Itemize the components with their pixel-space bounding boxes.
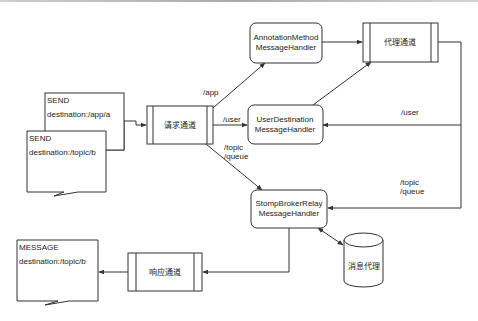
response-channel: 响应通道 bbox=[128, 253, 202, 291]
send-topic-title: SEND bbox=[29, 134, 51, 143]
send-topic-frame: SEND destination:/topic/b bbox=[27, 131, 106, 196]
message-out-frame: MESSAGE destination:/topic/b bbox=[17, 240, 98, 305]
broker-channel-label: 代理通道 bbox=[384, 37, 416, 47]
send-app-title: SEND bbox=[47, 96, 69, 105]
message-broker-label: 消息代理 bbox=[348, 261, 380, 271]
annotation-method-message-handler: AnnotationMethod MessageHandler bbox=[250, 23, 322, 63]
edge-send-to-request-channel bbox=[124, 121, 146, 125]
message-out-title: MESSAGE bbox=[19, 243, 59, 252]
user-destination-handler-line2: MessageHandler bbox=[255, 125, 316, 134]
edge-user-destination-to-broker-channel bbox=[313, 62, 371, 105]
user-destination-message-handler: UserDestination MessageHandler bbox=[248, 105, 323, 144]
user-destination-handler-line1: UserDestination bbox=[257, 115, 314, 124]
request-channel-label: 请求通道 bbox=[164, 120, 196, 130]
message-out-destination: destination:/topic/b bbox=[19, 257, 86, 266]
edge-label-queue: /queue bbox=[224, 152, 249, 161]
edge-label-topic: /topic bbox=[224, 143, 243, 152]
edge-relay-broker-bidirectional bbox=[318, 228, 343, 245]
request-channel: 请求通道 bbox=[147, 106, 213, 144]
edge-label-topic-return: /topic bbox=[400, 178, 419, 187]
send-topic-destination: destination:/topic/b bbox=[29, 148, 96, 157]
message-broker-cylinder: 消息代理 bbox=[344, 233, 383, 287]
response-channel-label: 响应通道 bbox=[149, 267, 181, 277]
stomp-relay-handler-line1: StompBrokerRelay bbox=[255, 199, 322, 208]
edge-label-queue-return: /queue bbox=[400, 187, 425, 196]
stomp-relay-handler-line2: MessageHandler bbox=[259, 209, 320, 218]
annotation-handler-line2: MessageHandler bbox=[256, 43, 317, 52]
edge-label-app: /app bbox=[203, 88, 219, 97]
edge-label-user-return: /user bbox=[401, 108, 419, 117]
edge-app bbox=[213, 63, 265, 108]
edge-label-user: /user bbox=[223, 115, 241, 124]
broker-channel: 代理通道 bbox=[363, 23, 438, 62]
send-app-destination: destination:/app/a bbox=[47, 110, 111, 119]
stomp-message-flow-diagram: SEND destination:/app/a SEND destination… bbox=[0, 0, 478, 321]
edge-relay-to-response-channel bbox=[203, 228, 289, 272]
stomp-broker-relay-message-handler: StompBrokerRelay MessageHandler bbox=[251, 190, 327, 228]
annotation-handler-line1: AnnotationMethod bbox=[254, 33, 319, 42]
